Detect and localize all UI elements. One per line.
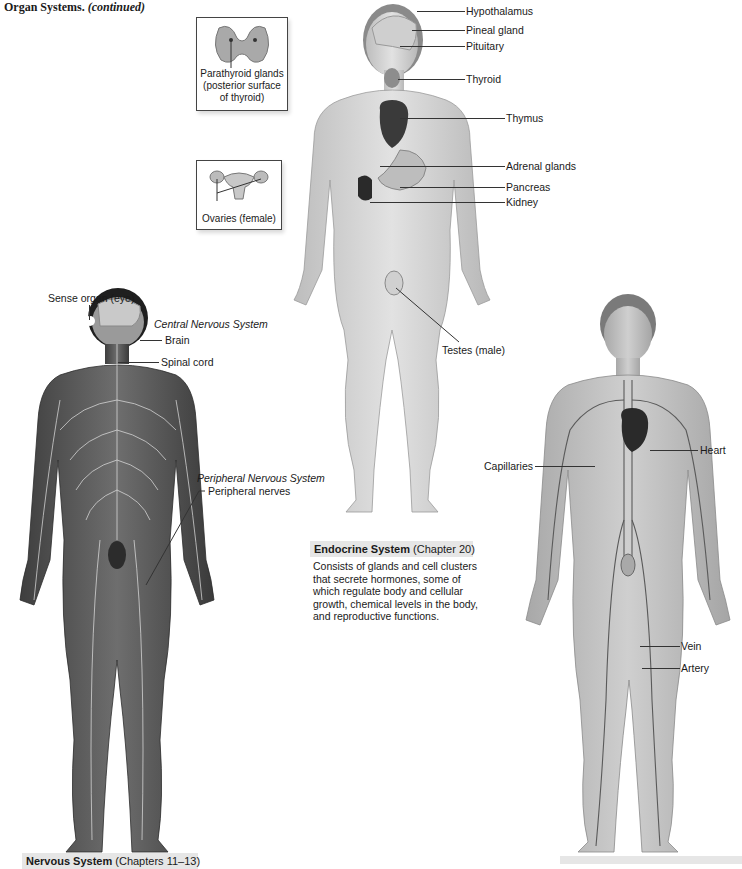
label-pituitary: Pituitary [466, 40, 504, 52]
label-kidney: Kidney [506, 196, 538, 208]
cardiovascular-caption [560, 856, 742, 864]
parathyroid-caption-line-1: Parathyroid glands [197, 68, 287, 80]
label-heart: Heart [700, 444, 726, 456]
endocrine-description: Consists of glands and cell clusters tha… [313, 560, 483, 623]
label-peripheral-nerves: Peripheral nerves [208, 485, 290, 497]
thyroid-illustration [197, 20, 287, 70]
label-central-nervous-system: Central Nervous System [154, 318, 268, 330]
label-thyroid: Thyroid [466, 73, 501, 85]
nervous-caption-chapter: (Chapters 11–13) [115, 855, 200, 867]
endocrine-caption: Endocrine System (Chapter 20) [310, 541, 473, 557]
ovaries-caption: Ovaries (female) [197, 213, 281, 225]
label-spinal-cord: Spinal cord [161, 356, 214, 368]
label-artery: Artery [681, 662, 709, 674]
parathyroid-caption-line-3: of thyroid) [197, 92, 287, 104]
label-pancreas: Pancreas [506, 181, 550, 193]
endocrine-caption-name: Endocrine System [314, 543, 410, 555]
inset-parathyroid: Parathyroid glands (posterior surface of… [196, 17, 288, 111]
inset-ovaries: Ovaries (female) [196, 160, 282, 230]
parathyroid-caption-line-2: (posterior surface [197, 80, 287, 92]
label-vein: Vein [681, 640, 701, 652]
label-peripheral-nervous-system: Peripheral Nervous System [197, 472, 325, 484]
nervous-caption-name: Nervous System [26, 855, 112, 867]
label-adrenal-glands: Adrenal glands [506, 160, 576, 172]
label-sense-organ: Sense organ (eye) [48, 292, 134, 304]
label-capillaries: Capillaries [484, 460, 533, 472]
label-testes: Testes (male) [442, 344, 505, 356]
label-hypothalamus: Hypothalamus [466, 5, 533, 17]
label-pineal-gland: Pineal gland [466, 24, 524, 36]
nervous-caption: Nervous System (Chapters 11–13) [22, 853, 198, 869]
parathyroid-caption: Parathyroid glands (posterior surface of… [197, 68, 287, 104]
label-brain: Brain [165, 334, 190, 346]
ovaries-illustration [197, 165, 281, 205]
label-thymus: Thymus [506, 112, 543, 124]
endocrine-caption-chapter: (Chapter 20) [413, 543, 475, 555]
